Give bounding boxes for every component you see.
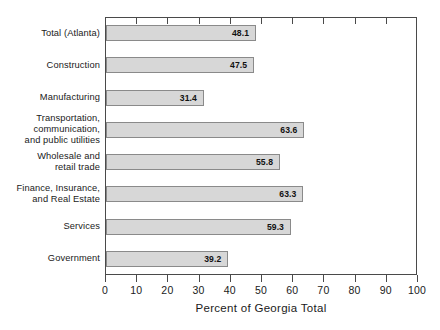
bar-track: 55.8 — [106, 146, 417, 178]
bar: 39.2 — [106, 251, 228, 267]
tick-mark-bottom — [105, 275, 106, 282]
tick-mark-bottom — [417, 275, 418, 282]
x-axis-tick-label: 90 — [380, 284, 392, 296]
bar-value-label: 31.4 — [180, 93, 203, 103]
bar-row: Services59.3 — [0, 211, 440, 243]
x-axis-tick-label: 30 — [193, 284, 205, 296]
bar-value-label: 59.3 — [267, 222, 290, 232]
category-label: Wholesale and retail trade — [0, 151, 100, 173]
tick-mark-bottom — [261, 275, 262, 282]
tick-mark-bottom — [136, 275, 137, 282]
bar-track: 31.4 — [106, 82, 417, 114]
tick-mark-bottom — [355, 275, 356, 282]
x-axis-tick-label: 40 — [224, 284, 236, 296]
bar-value-label: 39.2 — [204, 254, 227, 264]
bar: 48.1 — [106, 25, 256, 41]
category-label: Transportation, communication, and publi… — [0, 113, 100, 147]
category-label: Total (Atlanta) — [0, 28, 100, 39]
bar-value-label: 48.1 — [232, 28, 255, 38]
bar: 31.4 — [106, 90, 204, 106]
bar-value-label: 63.6 — [280, 125, 303, 135]
bar-row: Total (Atlanta)48.1 — [0, 17, 440, 49]
bar: 63.6 — [106, 122, 304, 138]
bar: 47.5 — [106, 57, 254, 73]
bar-value-label: 55.8 — [256, 157, 279, 167]
bar-track: 59.3 — [106, 211, 417, 243]
bar-value-label: 63.3 — [279, 189, 302, 199]
category-label: Finance, Insurance, and Real Estate — [0, 183, 100, 205]
category-label: Services — [0, 221, 100, 232]
x-axis-tick-labels: 0102030405060708090100 — [0, 284, 440, 298]
bar-track: 39.2 — [106, 243, 417, 275]
bar-row: Construction47.5 — [0, 49, 440, 81]
bar-value-label: 47.5 — [230, 60, 253, 70]
bar-chart: Total (Atlanta)48.1Construction47.5Manuf… — [0, 0, 440, 330]
x-axis-tick-label: 70 — [317, 284, 329, 296]
tick-mark-bottom — [167, 275, 168, 282]
x-axis-tick-label: 0 — [102, 284, 108, 296]
bar-row: Transportation, communication, and publi… — [0, 114, 440, 146]
x-axis-tick-label: 60 — [286, 284, 298, 296]
x-axis-title: Percent of Georgia Total — [105, 302, 417, 314]
bar-track: 47.5 — [106, 49, 417, 81]
tick-mark-bottom — [230, 275, 231, 282]
category-label: Construction — [0, 60, 100, 71]
x-axis-tick-label: 80 — [349, 284, 361, 296]
bar-track: 48.1 — [106, 17, 417, 49]
x-axis-tick-label: 20 — [161, 284, 173, 296]
bar-row: Wholesale and retail trade55.8 — [0, 146, 440, 178]
bar-track: 63.6 — [106, 114, 417, 146]
bar-track: 63.3 — [106, 178, 417, 210]
tick-mark-bottom — [199, 275, 200, 282]
bar: 59.3 — [106, 219, 291, 235]
bar-row: Manufacturing31.4 — [0, 82, 440, 114]
x-axis-tick-label: 10 — [130, 284, 142, 296]
x-axis-tick-label: 50 — [255, 284, 267, 296]
tick-mark-bottom — [323, 275, 324, 282]
bar-row: Finance, Insurance, and Real Estate63.3 — [0, 178, 440, 210]
category-label: Manufacturing — [0, 92, 100, 103]
bar-rows: Total (Atlanta)48.1Construction47.5Manuf… — [0, 17, 440, 275]
bar: 55.8 — [106, 154, 280, 170]
x-axis-tick-label: 100 — [408, 284, 426, 296]
tick-mark-bottom — [386, 275, 387, 282]
bar: 63.3 — [106, 186, 303, 202]
tick-mark-bottom — [292, 275, 293, 282]
category-label: Government — [0, 253, 100, 264]
bar-row: Government39.2 — [0, 243, 440, 275]
